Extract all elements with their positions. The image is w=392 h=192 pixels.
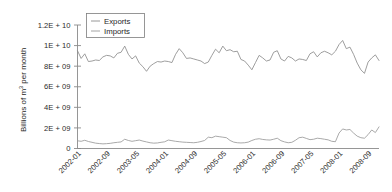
x-tick-label: 2008-01	[318, 149, 344, 175]
svg-text:Billions of m3 per month: Billions of m3 per month	[18, 48, 28, 132]
x-tick-label: 2005-05	[202, 149, 228, 175]
axes	[78, 25, 380, 149]
y-tick-label: 1.2E + 10	[38, 21, 71, 30]
x-axis-ticks: 2002-012002-092003-052004-012004-092005-…	[57, 149, 374, 175]
y-axis-ticks: 02E + 094E + 096E + 098E + 091E + 101.2E…	[38, 21, 81, 154]
y-tick-label: 2E + 09	[44, 124, 70, 133]
y-axis-title: Billions of m3 per month	[18, 48, 28, 132]
line-chart: Billions of m3 per month 02E + 094E + 09…	[0, 0, 392, 192]
x-tick-label: 2004-09	[173, 149, 199, 175]
x-tick-label: 2004-01	[144, 149, 170, 175]
x-tick-label: 2006-01	[231, 149, 257, 175]
x-tick-label: 2003-05	[115, 149, 141, 175]
y-axis-title-prefix: Billions of m	[19, 89, 28, 132]
legend-label-imports: Imports	[104, 27, 130, 36]
series-line-imports	[78, 127, 380, 144]
y-tick-label: 4E + 09	[44, 103, 70, 112]
series-line-exports	[78, 40, 380, 73]
y-tick-label: 1E + 10	[44, 41, 70, 50]
legend-label-exports: Exports	[104, 17, 131, 26]
legend: Exports Imports	[87, 14, 145, 38]
y-tick-label: 0	[66, 144, 70, 153]
series-group	[78, 40, 380, 143]
y-axis-title-suffix: per month	[19, 48, 28, 86]
y-tick-label: 6E + 09	[44, 82, 70, 91]
y-tick-label: 8E + 09	[44, 62, 70, 71]
x-tick-label: 2006-09	[260, 149, 286, 175]
x-tick-label: 2007-05	[289, 149, 315, 175]
x-tick-label: 2008-09	[347, 149, 373, 175]
x-tick-label: 2002-09	[86, 149, 112, 175]
chart-container: Billions of m3 per month 02E + 094E + 09…	[0, 0, 392, 192]
